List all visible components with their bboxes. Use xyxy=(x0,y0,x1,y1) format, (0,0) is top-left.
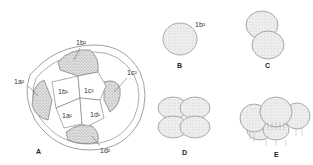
cell-1c2 xyxy=(104,81,120,112)
label-1c2: 1c² xyxy=(127,69,137,76)
caption-b: B xyxy=(177,62,182,69)
embryo-figure: 1b² 1a² 1b¹ 1c¹ 1c² 1a¹ 1d¹ 1d² A 1b² B … xyxy=(0,0,313,165)
panel-c: C xyxy=(246,11,284,69)
caption-e: E xyxy=(274,151,279,158)
label-b-1b2: 1b² xyxy=(195,21,206,28)
caption-c: C xyxy=(265,62,270,69)
label-1b2: 1b² xyxy=(76,39,87,46)
label-1d2: 1d² xyxy=(100,147,111,154)
panel-e: E xyxy=(240,97,310,158)
label-1d1: 1d¹ xyxy=(90,111,101,118)
panel-d: D xyxy=(158,97,210,156)
caption-d: D xyxy=(182,149,187,156)
cell-1b2 xyxy=(58,50,98,76)
label-1c1: 1c¹ xyxy=(84,87,94,94)
cell-1a2 xyxy=(32,80,52,120)
cell-1d2 xyxy=(66,125,98,144)
panel-b: 1b² B xyxy=(163,21,206,69)
panel-a: 1b² 1a² 1b¹ 1c¹ 1c² 1a¹ 1d¹ 1d² A xyxy=(14,39,145,155)
label-1a2: 1a² xyxy=(14,78,25,85)
label-1a1: 1a¹ xyxy=(62,112,73,119)
label-1b1: 1b¹ xyxy=(58,88,69,95)
cell-1c1 xyxy=(78,72,106,100)
caption-a: A xyxy=(36,148,41,155)
